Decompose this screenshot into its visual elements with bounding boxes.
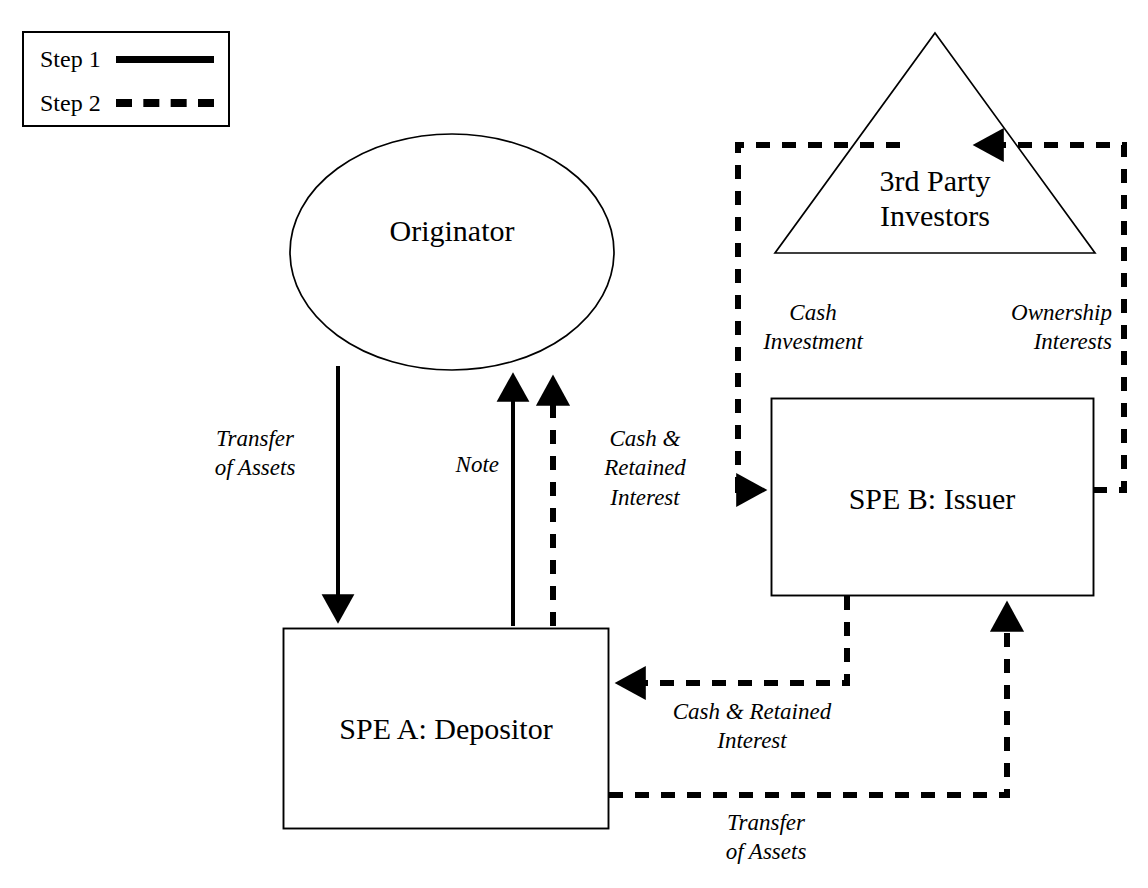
legend-dashed-line-swatch <box>116 99 214 107</box>
edge-label-ownership-interests: Ownership Interests <box>930 298 1112 357</box>
spe-b-label: SPE B: Issuer <box>781 481 1083 516</box>
edge-label-cash-investment: Cash Investment <box>742 298 884 357</box>
edge-label-transfer-of-assets-step2: Transfer of Assets <box>676 808 856 867</box>
legend-solid-line-swatch <box>116 56 214 63</box>
edge-label-transfer-of-assets-step1: Transfer of Assets <box>175 424 335 483</box>
originator-label: Originator <box>302 213 602 248</box>
legend-item-step-1-label: Step 1 <box>24 47 116 71</box>
diagram-canvas: Step 1 Step 2 Originator 3rd Party Inves… <box>0 0 1148 888</box>
edge-label-cash-retained-interest-to-spe-a: Cash & Retained Interest <box>621 697 883 756</box>
legend-item-step-1: Step 1 <box>24 37 228 81</box>
legend-item-step-2: Step 2 <box>24 81 228 125</box>
step-legend: Step 1 Step 2 <box>22 31 230 127</box>
arrow-cash-retained-interest-to-spe-a <box>620 596 847 683</box>
legend-item-step-2-label: Step 2 <box>24 91 116 115</box>
edge-label-note: Note <box>383 450 499 479</box>
originator-ellipse <box>290 134 614 370</box>
spe-a-label: SPE A: Depositor <box>291 711 601 746</box>
edge-label-cash-retained-interest-to-originator: Cash & Retained Interest <box>570 424 720 512</box>
third-party-investors-label: 3rd Party Investors <box>835 163 1035 234</box>
